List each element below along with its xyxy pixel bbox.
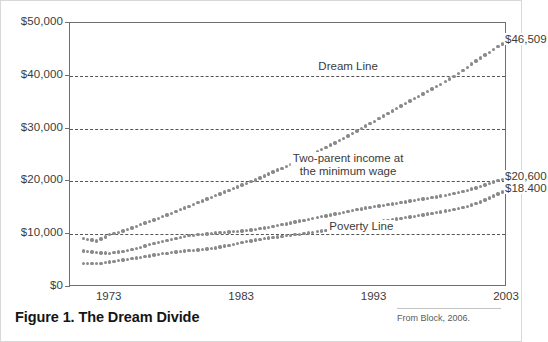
data-point bbox=[165, 252, 168, 255]
y-axis-tick-0: $0 bbox=[1, 279, 63, 291]
data-point bbox=[232, 243, 235, 246]
y-axis-tick-40000: $40,000 bbox=[1, 68, 63, 80]
source-divider bbox=[397, 308, 501, 309]
chart-block: $0$10,000$20,000$30,000$40,000$50,000 19… bbox=[1, 1, 523, 301]
annotation-2: Two-parent income at the minimum wage bbox=[291, 152, 406, 178]
data-point bbox=[210, 247, 213, 250]
data-point bbox=[236, 242, 239, 245]
y-axis-tick-30000: $30,000 bbox=[1, 121, 63, 133]
data-point bbox=[117, 259, 120, 262]
x-axis-tick-1993: 1993 bbox=[361, 290, 387, 302]
data-point bbox=[152, 253, 155, 256]
x-axis-tick-1983: 1983 bbox=[228, 290, 254, 302]
data-point bbox=[302, 232, 305, 235]
data-point bbox=[112, 260, 115, 263]
annotation-1: Dream Line bbox=[316, 60, 379, 73]
y-axis-tick-10000: $10,000 bbox=[1, 226, 63, 238]
data-point bbox=[245, 240, 248, 243]
data-point bbox=[201, 248, 204, 251]
data-point bbox=[157, 253, 160, 256]
data-point bbox=[413, 215, 416, 218]
data-point bbox=[426, 212, 429, 215]
data-point bbox=[205, 247, 208, 250]
data-point bbox=[439, 210, 442, 213]
data-point bbox=[307, 231, 310, 234]
data-point bbox=[99, 262, 102, 265]
data-point bbox=[276, 235, 279, 238]
plot-area: Dream LineTwo-parent income at the minim… bbox=[69, 22, 506, 286]
x-axis-tick-2003: 2003 bbox=[493, 290, 519, 302]
end-label-1: $46,509 bbox=[504, 33, 548, 45]
data-point bbox=[183, 249, 186, 252]
data-point bbox=[316, 230, 319, 233]
data-point bbox=[148, 254, 151, 257]
data-point bbox=[130, 257, 133, 260]
data-point bbox=[417, 214, 420, 217]
data-point bbox=[408, 215, 411, 218]
data-point bbox=[474, 202, 477, 205]
end-label-3: $18.400 bbox=[504, 182, 548, 194]
data-point bbox=[126, 258, 129, 261]
data-point bbox=[187, 249, 190, 252]
data-point bbox=[421, 213, 424, 216]
data-point bbox=[289, 234, 292, 237]
data-point bbox=[395, 217, 398, 220]
data-point bbox=[196, 248, 199, 251]
x-axis-tick-1973: 1973 bbox=[96, 290, 122, 302]
data-point bbox=[496, 192, 499, 195]
data-point bbox=[448, 209, 451, 212]
data-point bbox=[483, 198, 486, 201]
figure-caption: Figure 1. The Dream Divide bbox=[15, 309, 199, 325]
source-text: From Block, 2006. bbox=[397, 313, 509, 323]
data-point bbox=[280, 235, 283, 238]
data-point bbox=[461, 206, 464, 209]
y-axis-tick-mark bbox=[65, 286, 70, 287]
annotation-3: Poverty Line bbox=[327, 220, 395, 233]
data-point bbox=[444, 209, 447, 212]
data-point bbox=[223, 244, 226, 247]
data-point bbox=[179, 250, 182, 253]
data-point bbox=[488, 196, 491, 199]
data-point bbox=[466, 205, 469, 208]
data-point bbox=[170, 251, 173, 254]
data-point bbox=[298, 233, 301, 236]
data-point bbox=[258, 238, 261, 241]
series-3 bbox=[70, 23, 505, 285]
data-point bbox=[470, 203, 473, 206]
source-attribution: From Block, 2006. bbox=[397, 308, 509, 323]
end-label-2: $20,600 bbox=[504, 170, 548, 182]
data-point bbox=[108, 260, 111, 263]
data-point bbox=[285, 234, 288, 237]
data-point bbox=[271, 236, 274, 239]
data-point bbox=[263, 237, 266, 240]
data-point bbox=[135, 256, 138, 259]
data-point bbox=[435, 211, 438, 214]
data-point bbox=[104, 261, 107, 264]
data-point bbox=[86, 262, 89, 265]
data-point bbox=[139, 256, 142, 259]
data-point bbox=[82, 262, 85, 265]
data-point bbox=[214, 246, 217, 249]
data-point bbox=[320, 229, 323, 232]
data-point bbox=[240, 241, 243, 244]
data-point bbox=[311, 231, 314, 234]
data-point bbox=[254, 238, 257, 241]
data-point bbox=[267, 236, 270, 239]
data-point bbox=[293, 233, 296, 236]
data-point bbox=[227, 244, 230, 247]
data-point bbox=[192, 249, 195, 252]
y-axis-tick-20000: $20,000 bbox=[1, 173, 63, 185]
data-point bbox=[249, 239, 252, 242]
data-point bbox=[121, 258, 124, 261]
data-point bbox=[95, 262, 98, 265]
data-point bbox=[218, 245, 221, 248]
data-point bbox=[479, 200, 482, 203]
data-point bbox=[492, 194, 495, 197]
y-axis-tick-50000: $50,000 bbox=[1, 15, 63, 27]
data-point bbox=[161, 252, 164, 255]
data-point bbox=[452, 208, 455, 211]
data-point bbox=[404, 216, 407, 219]
data-point bbox=[430, 212, 433, 215]
data-point bbox=[457, 207, 460, 210]
